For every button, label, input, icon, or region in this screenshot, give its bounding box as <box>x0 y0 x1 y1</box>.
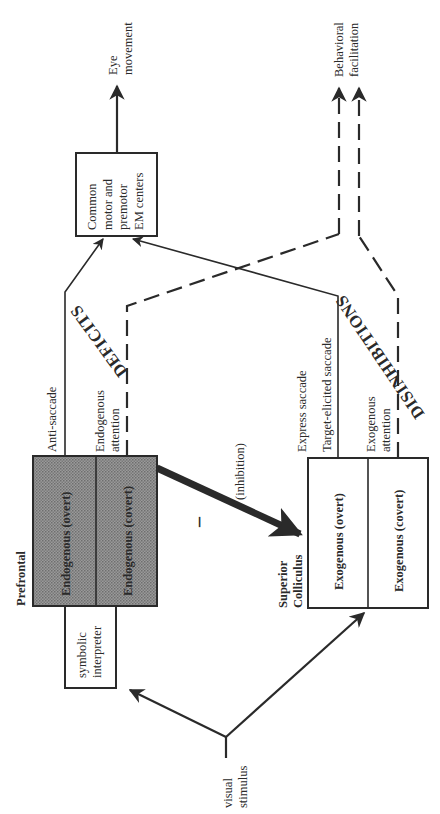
prefrontal-box <box>33 456 157 606</box>
stimulus-to-colliculus-arrow <box>226 613 364 737</box>
prefrontal-title: Prefrontal <box>14 550 28 606</box>
behavioral-facilitation-label: Behavioral facilitation <box>332 19 361 77</box>
common-motor-label: Common motor and premotor EM centers <box>85 173 146 230</box>
prefrontal-overt-cell: Endogenous (overt) <box>59 491 73 596</box>
inhibition-arrow <box>157 468 300 534</box>
exogenous-attention-label: Exogenous attention <box>364 393 393 452</box>
attention-diagram: Eye movement Behavioral facilitation Com… <box>0 0 440 814</box>
superior-colliculus-box <box>308 458 428 608</box>
endogenous-attention-label: Endogenous attention <box>93 387 122 452</box>
inhibition-label: (inhibition) <box>233 443 247 500</box>
express-saccade-label: Express saccade <box>295 370 309 452</box>
eye-movement-label: Eye movement <box>106 22 135 75</box>
sc-overt-cell: Exogenous (overt) <box>332 493 346 590</box>
inhibition-minus-sign: – <box>187 516 209 528</box>
superior-colliculus-title: Superior Colliculus <box>276 554 305 608</box>
visual-stimulus-label: visual stimulus <box>221 765 250 808</box>
deficits-annotation: DEFICITS <box>66 301 131 380</box>
prefrontal-covert-cell: Endogenous (covert) <box>121 486 135 596</box>
stimulus-to-symbolic-arrow <box>130 690 226 737</box>
sc-covert-cell: Exogenous (covert) <box>392 490 406 592</box>
prefrontal-box-outline <box>33 456 157 606</box>
disinhibitions-annotation: DISINHIBITIONS <box>332 292 429 423</box>
anti-saccade-label: Anti-saccade <box>45 386 59 452</box>
symbolic-interpreter-label: symbolic interpreter <box>75 625 104 678</box>
target-elicited-saccade-label: Target-elicited saccade <box>320 337 334 452</box>
